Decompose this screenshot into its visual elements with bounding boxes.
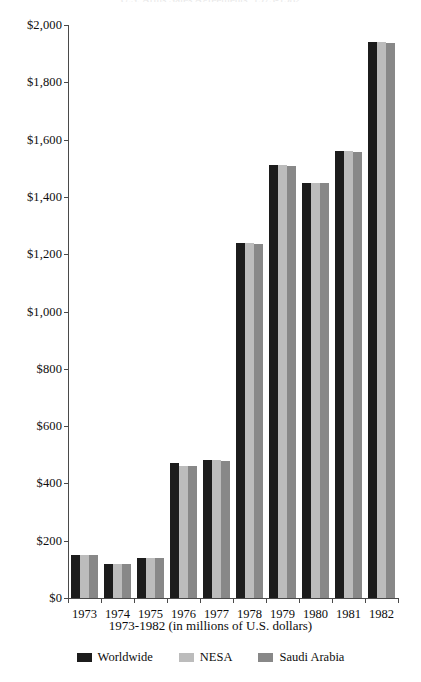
legend-swatch-worldwide [77, 653, 92, 662]
x-axis-tick [167, 598, 168, 603]
bar [368, 42, 377, 598]
plot-area: $2,000$1,800$1,600$1,400$1,200$1,000$800… [68, 25, 398, 598]
bar [188, 466, 197, 598]
legend-item: NESA [179, 650, 233, 665]
bar [212, 460, 221, 598]
bar [344, 151, 353, 598]
bar [254, 244, 263, 598]
bar [89, 555, 98, 598]
x-axis-tick [134, 598, 135, 603]
bar-group [71, 25, 98, 598]
bar [386, 43, 395, 598]
bar [137, 558, 146, 598]
y-axis-tick [64, 82, 69, 83]
legend-item-label: Worldwide [98, 650, 153, 665]
bar [320, 183, 329, 598]
bar [71, 555, 80, 598]
bar [104, 564, 113, 598]
bar-group [335, 25, 362, 598]
bar [146, 558, 155, 598]
chart-title: U.S. Arms Sales Agreements, 1973-1982 [0, 0, 421, 2]
bar [287, 166, 296, 598]
x-axis-tick [266, 598, 267, 603]
x-axis-tick [299, 598, 300, 603]
bar-group [236, 25, 263, 598]
bar [80, 555, 89, 598]
y-axis-tick-label: $1,600 [27, 132, 62, 147]
bar-group [170, 25, 197, 598]
y-axis-tick-label: $1,200 [27, 247, 62, 262]
bar [155, 558, 164, 598]
bar [113, 564, 122, 598]
bar [203, 460, 212, 598]
bar-group [203, 25, 230, 598]
x-axis-tick [68, 598, 69, 603]
x-axis-tick [200, 598, 201, 603]
bar [278, 165, 287, 598]
y-axis-tick-label: $1,800 [27, 75, 62, 90]
bar [236, 243, 245, 598]
y-axis-tick-label: $1,400 [27, 189, 62, 204]
y-axis-tick-label: $0 [49, 591, 62, 606]
legend-item: Saudi Arabia [258, 650, 344, 665]
bar-group [269, 25, 296, 598]
bar [269, 165, 278, 598]
bar [377, 42, 386, 598]
bar [245, 243, 254, 598]
bar [179, 466, 188, 598]
y-axis-tick [64, 197, 69, 198]
y-axis-tick-label: $600 [37, 419, 62, 434]
y-axis-tick [64, 312, 69, 313]
bar [221, 461, 230, 598]
y-axis-tick-label: $400 [37, 476, 62, 491]
chart-root: U.S. Arms Sales Agreements, 1973-1982 $2… [0, 0, 421, 682]
y-axis-tick-label: $1,000 [27, 304, 62, 319]
y-axis-tick-label: $200 [37, 533, 62, 548]
x-axis-tick [398, 598, 399, 603]
bar-group [302, 25, 329, 598]
bar [335, 151, 344, 598]
legend-swatch-nesa [179, 653, 194, 662]
y-axis-tick [64, 25, 69, 26]
y-axis-tick [64, 254, 69, 255]
bar [311, 183, 320, 598]
y-axis-tick-label: $2,000 [27, 18, 62, 33]
chart-legend: WorldwideNESASaudi Arabia [0, 650, 421, 665]
legend-item: Worldwide [77, 650, 153, 665]
bar [170, 463, 179, 598]
y-axis-tick-label: $800 [37, 361, 62, 376]
bar-group [368, 25, 395, 598]
legend-item-label: Saudi Arabia [279, 650, 344, 665]
y-axis-tick [64, 369, 69, 370]
bar-group [137, 25, 164, 598]
bar-group [104, 25, 131, 598]
legend-item-label: NESA [200, 650, 233, 665]
y-axis-tick [64, 483, 69, 484]
x-axis-tick [365, 598, 366, 603]
y-axis-tick [64, 140, 69, 141]
x-axis-tick [332, 598, 333, 603]
legend-swatch-saudi-arabia [258, 653, 273, 662]
x-axis-caption: 1973-1982 (in millions of U.S. dollars) [0, 618, 421, 634]
y-axis-tick [64, 541, 69, 542]
x-axis-tick [233, 598, 234, 603]
bar [302, 183, 311, 598]
bar [353, 152, 362, 598]
x-axis-tick [101, 598, 102, 603]
bar [122, 564, 131, 598]
y-axis-tick [64, 426, 69, 427]
